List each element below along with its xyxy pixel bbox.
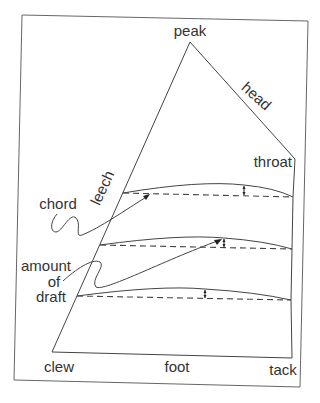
label-leech: leech <box>87 168 118 208</box>
label-tack: tack <box>269 361 297 378</box>
label-clew: clew <box>44 358 74 375</box>
draft-arrowhead-upper-top <box>243 186 246 189</box>
camber-curve-middle <box>100 237 292 249</box>
draft-arrowhead-upper-bottom <box>243 192 246 195</box>
label-chord: chord <box>39 195 77 212</box>
label-throat: throat <box>254 153 293 170</box>
label-amount: amount <box>21 257 72 274</box>
draft-arrowhead-lower-bottom <box>204 295 207 298</box>
camber-curve-lower <box>77 288 291 300</box>
chord-lower <box>77 288 291 300</box>
label-foot: foot <box>164 358 190 375</box>
draft-arrowhead-lower-top <box>204 290 207 293</box>
draft-arrowhead-middle-bottom <box>223 244 226 247</box>
chord-arrowhead <box>143 194 150 200</box>
chord-line-lower <box>77 296 291 300</box>
label-head: head <box>239 78 275 113</box>
draft-squiggle <box>63 240 220 288</box>
sail-diagram: peak head throat leech chord amount of d… <box>0 0 320 403</box>
label-peak: peak <box>174 22 207 39</box>
chord-line-middle <box>100 245 292 249</box>
chord-middle <box>100 237 292 249</box>
draft-arrowhead-middle-top <box>223 239 226 242</box>
label-draft: draft <box>36 288 67 305</box>
